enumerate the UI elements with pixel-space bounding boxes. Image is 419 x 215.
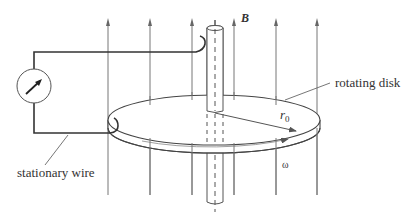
wire-leader-line <box>45 135 68 165</box>
disk-leader-line <box>285 83 330 100</box>
stationary-wire-label: stationary wire <box>17 165 95 180</box>
galvanometer <box>17 69 51 103</box>
rotating-disk-label: rotating disk <box>335 75 401 90</box>
axle-upper <box>207 20 223 113</box>
faraday-disk-diagram: B rotating disk stationary wire r0 ω <box>0 0 419 215</box>
radius-subscript: 0 <box>285 114 290 124</box>
field-label-B: B <box>240 11 249 25</box>
angular-velocity-label: ω <box>282 159 289 170</box>
